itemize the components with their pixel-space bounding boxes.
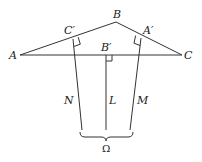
geometry-diagram: A B C C′ A′ B′ N L M Ω [0, 0, 202, 162]
diagram-svg: A B C C′ A′ B′ N L M Ω [0, 0, 202, 162]
right-angle-marker-B-prime [106, 55, 112, 61]
label-A-prime: A′ [142, 24, 154, 37]
label-A: A [8, 49, 17, 62]
label-L: L [108, 94, 116, 107]
label-B: B [112, 8, 121, 21]
right-angle-marker-C-prime [74, 37, 81, 46]
line-N [73, 39, 82, 130]
label-B-prime: B′ [100, 41, 112, 54]
label-omega: Ω [102, 143, 110, 154]
label-C: C [184, 49, 193, 62]
right-angle-marker-A-prime [134, 36, 140, 46]
label-C-prime: C′ [64, 24, 75, 37]
brace-omega [80, 132, 133, 141]
label-N: N [63, 94, 74, 107]
label-M: M [136, 94, 149, 107]
line-M [130, 38, 141, 130]
